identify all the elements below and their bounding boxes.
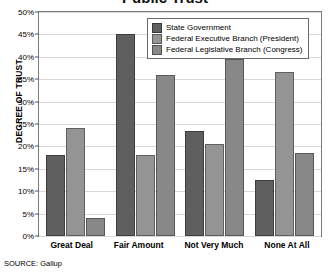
bar <box>205 144 224 236</box>
x-axis-category-label: None At All <box>264 240 309 250</box>
gridline <box>39 236 321 237</box>
source-note: SOURCE: Gallup <box>4 259 62 268</box>
x-axis-category-label: Great Deal <box>50 240 93 250</box>
y-axis-tick-label: 45% <box>18 30 39 39</box>
legend-item[interactable]: State Government <box>152 22 303 33</box>
x-axis-category-labels: Great DealFair AmountNot Very MuchNone A… <box>38 240 322 250</box>
bar <box>66 128 85 236</box>
bar <box>156 75 175 236</box>
legend-swatch-icon <box>152 45 162 55</box>
chart-title: Public Trust <box>0 0 330 6</box>
x-axis-category-label: Fair Amount <box>114 240 164 250</box>
y-axis-tick-label: 15% <box>18 164 39 173</box>
y-axis-tick-label: 0% <box>22 232 39 241</box>
y-axis-tick-label: 50% <box>18 8 39 17</box>
chart-title-clipped: Public Trust <box>0 0 330 7</box>
y-axis-tick-label: 40% <box>18 52 39 61</box>
bar <box>225 59 244 236</box>
y-axis-tick-label: 5% <box>22 209 39 218</box>
legend-label: State Government <box>166 23 231 32</box>
legend-item[interactable]: Federal Executive Branch (President) <box>152 33 303 44</box>
bar-chart: Public Trust DEGREE OF TRUST 50%45%40%35… <box>0 0 330 274</box>
bar-group <box>46 12 105 236</box>
legend-item[interactable]: Federal Legislative Branch (Congress) <box>152 44 303 55</box>
bar <box>185 131 204 236</box>
bar <box>295 153 314 236</box>
bar <box>275 72 294 236</box>
bar <box>46 155 65 236</box>
legend-label: Federal Legislative Branch (Congress) <box>166 45 303 54</box>
bar <box>255 180 274 236</box>
bar <box>136 155 155 236</box>
y-axis-tick-label: 25% <box>18 120 39 129</box>
bar <box>86 218 105 236</box>
chart-legend: State GovernmentFederal Executive Branch… <box>147 18 309 59</box>
y-axis-tick-label: 30% <box>18 97 39 106</box>
x-axis-category-label: Not Very Much <box>184 240 243 250</box>
y-axis-tick-label: 10% <box>18 187 39 196</box>
y-axis-tick-label: 20% <box>18 142 39 151</box>
legend-swatch-icon <box>152 23 162 33</box>
legend-swatch-icon <box>152 34 162 44</box>
legend-label: Federal Executive Branch (President) <box>166 34 299 43</box>
y-axis-tick-label: 35% <box>18 75 39 84</box>
bar <box>116 34 135 236</box>
